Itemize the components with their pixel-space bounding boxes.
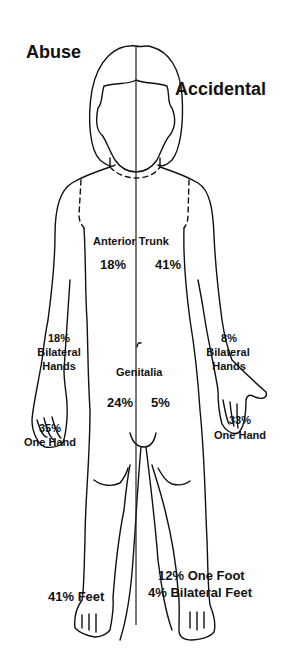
bilateral-hands-accidental-label-1: Bilateral <box>202 347 254 358</box>
bilateral-hands-abuse-label-1: Bilateral <box>33 347 85 358</box>
one-hand-accidental-label: One Hand <box>208 430 272 441</box>
one-hand-abuse-value: 35% <box>20 423 80 434</box>
bilateral-feet-accidental-value: 4% Bilateral Feet <box>148 586 252 599</box>
bilateral-hands-accidental-label-2: Hands <box>206 361 252 372</box>
genitalia-accidental-value: 5% <box>151 396 170 409</box>
abuse-title: Abuse <box>26 43 81 61</box>
one-hand-accidental-value: 33% <box>210 415 270 426</box>
bilateral-hands-abuse-label-2: Hands <box>36 361 82 372</box>
anterior-trunk-abuse-value: 18% <box>100 258 126 271</box>
bilateral-hands-abuse-value: 18% <box>36 333 82 344</box>
one-hand-abuse-label: One Hand <box>18 437 82 448</box>
genitalia-abuse-value: 24% <box>107 396 133 409</box>
anterior-trunk-label: Anterior Trunk <box>93 236 169 247</box>
accidental-title: Accidental <box>175 80 266 98</box>
bilateral-hands-accidental-value: 8% <box>206 333 252 344</box>
feet-abuse-value: 41% Feet <box>48 590 104 603</box>
genitalia-label: Genitalia <box>116 367 162 378</box>
body-diagram: Abuse Accidental Anterior Trunk 18% 41% … <box>0 0 289 655</box>
anterior-trunk-accidental-value: 41% <box>155 258 181 271</box>
one-foot-accidental-value: 12% One Foot <box>158 569 245 582</box>
